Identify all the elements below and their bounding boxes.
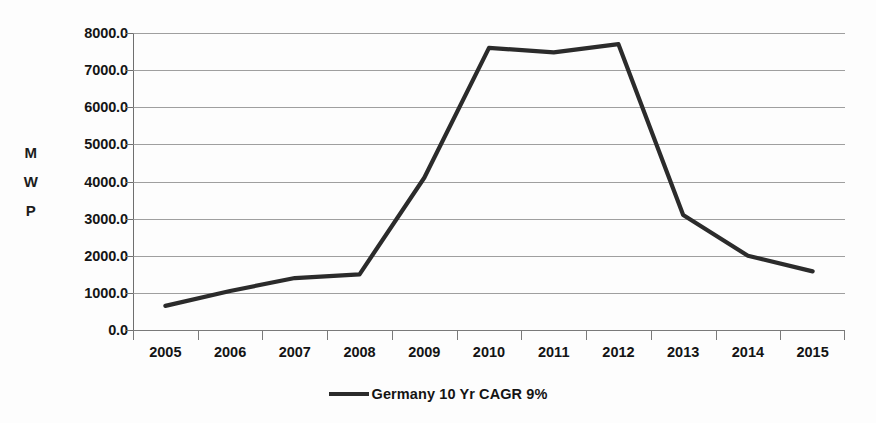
chart-legend: Germany 10 Yr CAGR 9%	[0, 386, 876, 402]
x-axis-tick-marks	[133, 331, 845, 340]
x-axis-tick-mark	[198, 331, 199, 340]
series-line-layer	[133, 33, 845, 330]
y-axis-tick-label: 3000.0	[44, 211, 128, 227]
x-axis-tick-mark	[780, 331, 781, 340]
y-axis-title-char-w: W	[18, 167, 44, 196]
y-axis-tick-label: 1000.0	[44, 285, 128, 301]
x-axis-tick-mark	[716, 331, 717, 340]
x-axis-tick-mark	[392, 331, 393, 340]
y-axis-title-char-p: P	[18, 196, 44, 225]
x-axis-tick-label: 2014	[732, 344, 764, 360]
y-axis-title: M W P	[18, 138, 44, 225]
x-axis-tick-label: 2011	[538, 344, 569, 360]
x-axis-tick-mark	[457, 331, 458, 340]
y-axis-tick-label: 0.0	[44, 322, 128, 338]
y-axis-tick-label: 7000.0	[44, 62, 128, 78]
x-axis-tick-label: 2006	[214, 344, 246, 360]
y-axis-tick-label: 4000.0	[44, 174, 128, 190]
x-axis-tick-label: 2008	[343, 344, 375, 360]
x-axis-tick-mark	[844, 331, 845, 340]
x-axis-tick-label: 2015	[796, 344, 828, 360]
x-axis-tick-mark	[521, 331, 522, 340]
x-axis-tick-mark	[133, 331, 134, 340]
x-axis-tick-labels: 2005200620072008200920102011201220132014…	[133, 344, 845, 370]
x-axis-tick-mark	[651, 331, 652, 340]
x-axis-tick-label: 2009	[408, 344, 440, 360]
y-axis-tick-label: 5000.0	[44, 136, 128, 152]
x-axis-tick-label: 2005	[149, 344, 181, 360]
series-line-germany	[165, 44, 812, 306]
y-axis-tick-label: 2000.0	[44, 248, 128, 264]
x-axis-tick-label: 2012	[602, 344, 634, 360]
x-axis-tick-label: 2007	[279, 344, 311, 360]
x-axis-tick-mark	[327, 331, 328, 340]
x-axis-tick-label: 2010	[473, 344, 505, 360]
y-axis-tick-label: 6000.0	[44, 99, 128, 115]
x-axis-tick-mark	[586, 331, 587, 340]
x-axis-tick-mark	[262, 331, 263, 340]
y-axis-title-char-m: M	[18, 138, 44, 167]
legend-line-marker-icon	[329, 392, 369, 396]
y-axis-tick-labels: 8000.07000.06000.05000.04000.03000.02000…	[44, 33, 128, 330]
legend-label-germany: Germany 10 Yr CAGR 9%	[372, 386, 548, 402]
y-axis-tick-label: 8000.0	[44, 25, 128, 41]
x-axis-tick-label: 2013	[667, 344, 699, 360]
chart-container: M W P 8000.07000.06000.05000.04000.03000…	[0, 0, 876, 423]
